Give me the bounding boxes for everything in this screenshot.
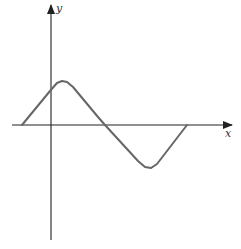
y-axis-label: y (56, 2, 62, 15)
x-axis-label: x (225, 127, 231, 140)
plot-area (0, 0, 241, 249)
